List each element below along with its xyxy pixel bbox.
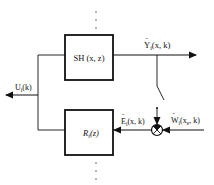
r-block: Ri(z) [65,110,113,155]
control-loop-line [38,55,65,130]
error-label: Ei(x, k) [121,117,145,127]
sh-block-label: SH (x, z) [74,53,105,63]
summing-junction [152,124,163,135]
switch-icon [157,86,164,100]
control-label: Ui(k) [15,83,32,93]
dotted-continuation-bottom [95,162,97,180]
sh-block: SH (x, z) [65,35,113,80]
reference-label: Wi(xe, k) [171,116,200,126]
block-diagram: SH (x, z) Yi(x, k) ˜ Wi(xe, k) ˜ Ei(x, k… [0,0,214,185]
r-block-label: Ri(z) [82,128,99,139]
dotted-continuation-top [95,11,97,29]
output-label: Yi(x, k) [144,40,170,51]
